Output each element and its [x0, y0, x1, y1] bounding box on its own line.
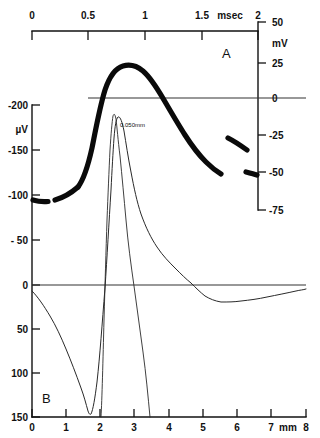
bottom-axis-labels: 0 1 2 3 4 5 6 7 8 mm [29, 422, 309, 433]
curve-action-potential-a [33, 65, 257, 201]
left-tick-label-0: 0 [22, 280, 28, 291]
top-tick-label-1.5: 1.5 [195, 10, 209, 21]
left-tick-label-150: 150 [11, 412, 28, 423]
right-tick-label-minus25: -25 [269, 130, 284, 141]
curve-extracellular-b [32, 117, 306, 415]
bottom-tick-label-5: 5 [200, 422, 206, 433]
top-tick-label-0: 0 [29, 10, 35, 21]
scientific-figure-svg: 0 0.5 1 1.5 2 msec 50 mV 25 0 -25 -50 -7… [0, 0, 320, 438]
top-tick-label-1: 1 [142, 10, 148, 21]
right-axis-labels: 50 mV 25 0 -25 -50 -75 [269, 17, 288, 216]
top-axis-unit-msec: msec [217, 10, 243, 21]
top-tick-label-0.5: 0.5 [81, 10, 95, 21]
right-tick-label-minus50: -50 [269, 167, 284, 178]
curve-narrow-spike-0050mm [101, 114, 150, 417]
left-axis-ticks [32, 105, 40, 417]
curve-a-segment-fragment-2 [246, 172, 257, 175]
top-tick-label-2: 2 [255, 10, 261, 21]
bottom-tick-label-6: 6 [234, 422, 240, 433]
curve-a-segment-spike [78, 65, 221, 187]
annotation-fibre-diameter: 0.050mm [120, 122, 145, 128]
bottom-tick-label-0: 0 [29, 422, 35, 433]
bottom-tick-label-1: 1 [63, 422, 69, 433]
bottom-tick-label-7: 7 [268, 422, 274, 433]
left-tick-label-50: 50 [17, 324, 29, 335]
left-axis-unit-uV: µV [16, 124, 29, 135]
bottom-axis-unit-mm: mm [279, 422, 297, 433]
curve-a-segment-rest-1 [33, 200, 48, 202]
left-tick-label-minus150: -150 [8, 145, 28, 156]
bottom-tick-label-2: 2 [97, 422, 103, 433]
right-tick-label-50: 50 [272, 17, 284, 28]
panel-label-b: B [42, 391, 51, 406]
left-tick-label-minus50: - 50 [11, 235, 29, 246]
right-axis-ticks [258, 22, 266, 210]
bottom-tick-label-4: 4 [166, 422, 172, 433]
bottom-axis-ticks [32, 409, 306, 417]
curve-a-segment-rest-2 [55, 187, 78, 200]
right-axis-unit-mV: mV [272, 38, 288, 49]
curve-b-main [32, 117, 306, 415]
right-tick-label-minus75: -75 [269, 205, 284, 216]
top-axis-labels: 0 0.5 1 1.5 2 msec [29, 10, 261, 21]
top-axis-ticks [32, 31, 258, 40]
bottom-tick-label-8: 8 [303, 422, 309, 433]
right-tick-label-25: 25 [272, 58, 284, 69]
curve-a-segment-fragment-1 [228, 138, 247, 150]
curve-narrow-spike-path [101, 114, 150, 417]
axis-frame [32, 22, 306, 417]
left-tick-label-minus200: -200 [8, 100, 28, 111]
left-tick-label-minus100: -100 [8, 190, 28, 201]
figure-container: 0 0.5 1 1.5 2 msec 50 mV 25 0 -25 -50 -7… [0, 0, 320, 438]
left-axis-labels: -200 µV -150 -100 - 50 0 50 100 150 [8, 100, 28, 423]
panel-label-a: A [222, 46, 231, 61]
left-tick-label-100: 100 [11, 368, 28, 379]
bottom-tick-label-3: 3 [131, 422, 137, 433]
